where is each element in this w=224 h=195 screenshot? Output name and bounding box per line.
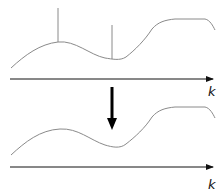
top-panel: k (10, 8, 216, 99)
top-axis-label: k (208, 84, 216, 99)
bottom-axis-label: k (208, 177, 216, 192)
filtering-diagram: k k (0, 0, 224, 195)
transform-arrow (107, 87, 117, 130)
top-signal-curve (11, 19, 215, 68)
